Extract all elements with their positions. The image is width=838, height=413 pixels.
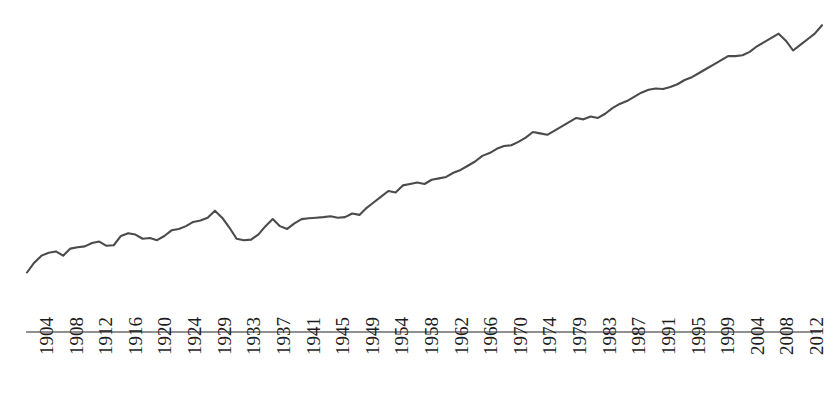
x-axis-tick-label: 1962: [452, 317, 471, 355]
x-axis-tick-label: 1904: [37, 317, 56, 355]
x-axis-tick-label: 1979: [570, 317, 589, 355]
x-axis-tick-label: 1908: [67, 317, 86, 355]
x-axis-tick-label: 2004: [748, 317, 767, 355]
x-axis-tick-label: 1983: [600, 317, 619, 355]
x-axis-tick-label: 2012: [807, 317, 826, 355]
data-series-line: [27, 25, 822, 272]
x-axis-tick-label: 1941: [304, 317, 323, 355]
x-axis-tick-label: 1954: [392, 317, 411, 355]
x-axis-tick-label: 1966: [481, 317, 500, 355]
x-axis-tick-label: 1912: [96, 317, 115, 355]
x-axis-tick-label: 1924: [185, 317, 204, 355]
x-axis-tick-label: 1949: [363, 317, 382, 355]
x-axis-tick-label: 1945: [333, 317, 352, 355]
x-axis-tick-label-group: 1904190819121916192019241929193319371941…: [0, 336, 838, 413]
x-axis-tick-label: 1958: [422, 317, 441, 355]
x-axis-tick-label: 2008: [777, 317, 796, 355]
x-axis-tick-label: 1920: [155, 317, 174, 355]
x-axis-tick-label: 1916: [126, 317, 145, 355]
x-axis-tick-label: 1991: [659, 317, 678, 355]
x-axis-tick-label: 1929: [215, 317, 234, 355]
x-axis-tick-label: 1970: [511, 317, 530, 355]
x-axis-tick-label: 1987: [629, 317, 648, 355]
line-chart: 1904190819121916192019241929193319371941…: [0, 0, 838, 413]
x-axis-tick-label: 1995: [689, 317, 708, 355]
x-axis-tick-label: 1999: [718, 317, 737, 355]
x-axis-tick-label: 1937: [274, 317, 293, 355]
x-axis-tick-label: 1974: [540, 317, 559, 355]
x-axis-tick-label: 1933: [244, 317, 263, 355]
